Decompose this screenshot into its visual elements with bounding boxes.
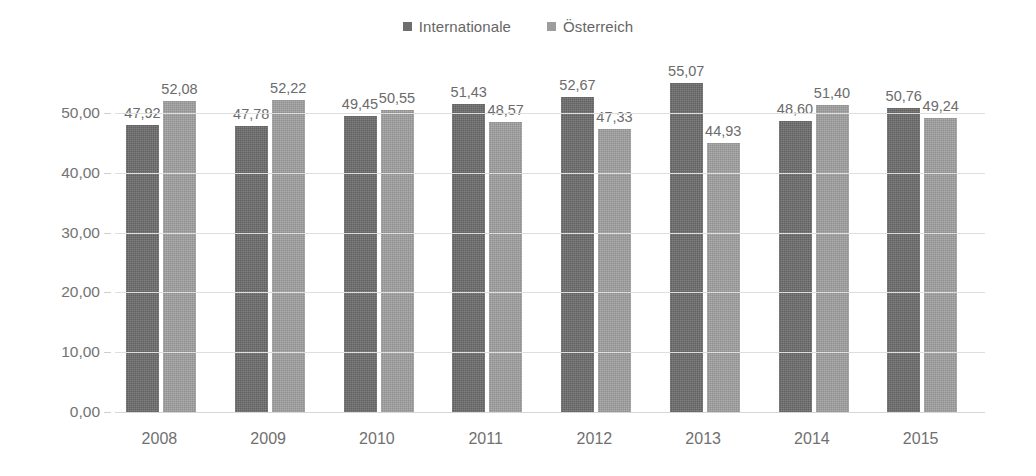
bar-fill — [779, 121, 812, 412]
bar-fill — [489, 122, 522, 412]
bar-fill — [670, 83, 703, 412]
bar[interactable]: 44,93 — [707, 143, 740, 412]
gridline — [115, 113, 985, 114]
bar-group: 50,7649,24 — [876, 113, 985, 412]
bar-group: 48,6051,40 — [768, 113, 877, 412]
y-axis: 0,0010,0020,0030,0040,0050,00 — [0, 0, 100, 476]
bar-value-label: 51,43 — [451, 84, 487, 100]
bar[interactable]: 52,67 — [561, 97, 594, 412]
x-axis-tick-label: 2008 — [142, 430, 178, 448]
y-axis-tick-mark — [104, 233, 111, 234]
y-axis-tick-label: 0,00 — [0, 403, 100, 421]
x-axis-tick-label: 2012 — [577, 430, 613, 448]
bar-value-label: 49,24 — [923, 98, 959, 114]
bar[interactable]: 47,33 — [598, 129, 631, 412]
bar-fill — [816, 105, 849, 412]
bar-fill — [561, 97, 594, 412]
gridline — [115, 173, 985, 174]
x-axis-tick-label: 2015 — [903, 430, 939, 448]
bar[interactable]: 49,24 — [924, 118, 957, 412]
y-axis-tick-label: 30,00 — [0, 224, 100, 242]
bar-value-label: 52,67 — [559, 77, 595, 93]
bar-fill — [598, 129, 631, 412]
bar[interactable]: 47,78 — [235, 126, 268, 412]
bar[interactable]: 52,22 — [272, 100, 305, 412]
bar-fill — [126, 125, 159, 412]
bar-fill — [452, 104, 485, 412]
bar-group: 49,4550,55 — [333, 113, 442, 412]
x-axis: 20082009201020112012201320142015 — [115, 424, 985, 464]
gridline — [115, 412, 985, 413]
legend-label-internationale: Internationale — [419, 18, 511, 35]
bar-fill — [344, 116, 377, 412]
x-axis-tick-label: 2014 — [794, 430, 830, 448]
bar-value-label: 52,08 — [161, 81, 197, 97]
bar-value-label: 48,57 — [488, 102, 524, 118]
bar[interactable]: 50,55 — [381, 110, 414, 412]
bar-fill — [381, 110, 414, 412]
bar-fill — [707, 143, 740, 412]
x-axis-tick-label: 2011 — [468, 430, 502, 448]
y-axis-tick-label: 10,00 — [0, 343, 100, 361]
bar[interactable]: 52,08 — [163, 101, 196, 412]
bar-value-label: 48,60 — [777, 101, 813, 117]
bar[interactable]: 48,60 — [779, 121, 812, 412]
chart-legend: Internationale Österreich — [0, 18, 1036, 35]
x-axis-tick-label: 2013 — [685, 430, 721, 448]
bar-value-label: 47,33 — [596, 109, 632, 125]
y-axis-tick-mark — [104, 412, 111, 413]
bar-value-label: 50,76 — [886, 88, 922, 104]
y-axis-tick-mark — [104, 352, 111, 353]
square-marker-icon — [403, 22, 412, 31]
bar-value-label: 44,93 — [705, 123, 741, 139]
bar-value-label: 55,07 — [668, 63, 704, 79]
bar-fill — [272, 100, 305, 412]
gridline — [115, 233, 985, 234]
bar-fill — [235, 126, 268, 412]
bar[interactable]: 47,92 — [126, 125, 159, 412]
bar[interactable]: 51,40 — [816, 105, 849, 412]
gridline — [115, 352, 985, 353]
x-axis-tick-label: 2010 — [359, 430, 395, 448]
bar-value-label: 47,78 — [233, 106, 269, 122]
y-axis-tick-mark — [104, 113, 111, 114]
gridline — [115, 292, 985, 293]
legend-item-oesterreich[interactable]: Österreich — [547, 18, 633, 35]
bar-group: 47,7852,22 — [224, 113, 333, 412]
y-axis-tick-mark — [104, 173, 111, 174]
bar-value-label: 51,40 — [814, 85, 850, 101]
legend-item-internationale[interactable]: Internationale — [403, 18, 511, 35]
bar-group: 55,0744,93 — [659, 113, 768, 412]
y-axis-tick-label: 40,00 — [0, 164, 100, 182]
bar-group: 51,4348,57 — [441, 113, 550, 412]
bar-fill — [924, 118, 957, 412]
y-axis-tick-label: 20,00 — [0, 283, 100, 301]
x-axis-tick-label: 2009 — [250, 430, 286, 448]
bar[interactable]: 50,76 — [887, 108, 920, 412]
bar-fill — [163, 101, 196, 412]
bar-chart: Internationale Österreich 0,0010,0020,00… — [0, 0, 1036, 476]
bar-value-label: 52,22 — [270, 80, 306, 96]
bar[interactable]: 51,43 — [452, 104, 485, 412]
plot-area: 47,9252,0847,7852,2249,4550,5551,4348,57… — [115, 113, 985, 412]
legend-label-oesterreich: Österreich — [563, 18, 633, 35]
bar[interactable]: 48,57 — [489, 122, 522, 412]
bar-group: 47,9252,08 — [115, 113, 224, 412]
square-marker-icon — [547, 22, 556, 31]
y-axis-tick-label: 50,00 — [0, 104, 100, 122]
bar-value-label: 49,45 — [342, 96, 378, 112]
bar-groups: 47,9252,0847,7852,2249,4550,5551,4348,57… — [115, 113, 985, 412]
bar[interactable]: 55,07 — [670, 83, 703, 412]
bar[interactable]: 49,45 — [344, 116, 377, 412]
bar-group: 52,6747,33 — [550, 113, 659, 412]
bar-value-label: 50,55 — [379, 90, 415, 106]
y-axis-tick-mark — [104, 292, 111, 293]
bar-fill — [887, 108, 920, 412]
